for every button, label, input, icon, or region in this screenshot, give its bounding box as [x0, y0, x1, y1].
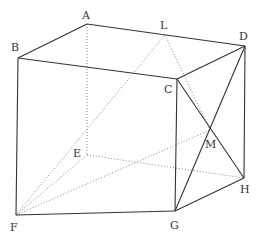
label-B: B [11, 41, 19, 54]
edge-FL [16, 35, 165, 215]
label-E: E [73, 147, 81, 160]
edge-FM [16, 130, 210, 215]
edge-AB [18, 24, 87, 58]
label-D: D [239, 30, 248, 43]
edge-GH [175, 178, 244, 211]
edge-CD [177, 46, 245, 79]
edge-BC [18, 58, 177, 79]
edge-BF [16, 58, 18, 215]
edge-DG [175, 46, 245, 211]
edge-EF [16, 155, 87, 215]
label-M: M [205, 138, 216, 151]
edge-EH [87, 155, 244, 178]
label-A: A [81, 9, 91, 22]
cuboid-diagram: ABCDEFGHLM [0, 0, 257, 232]
label-H: H [240, 183, 250, 196]
hidden-edges [16, 24, 244, 215]
label-L: L [160, 19, 168, 32]
edge-FG [16, 211, 175, 215]
label-G: G [170, 219, 179, 232]
label-F: F [10, 221, 18, 232]
edge-DH [244, 46, 245, 178]
label-C: C [164, 83, 172, 96]
